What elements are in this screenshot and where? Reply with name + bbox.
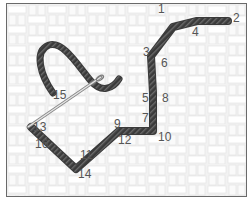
label-15: 15	[53, 88, 67, 102]
label-7: 7	[142, 111, 149, 125]
label-6: 6	[161, 56, 168, 70]
label-8: 8	[162, 91, 169, 105]
fabric-background	[7, 4, 247, 197]
label-9: 9	[114, 117, 121, 131]
label-14: 14	[78, 167, 92, 181]
stitch-diagram-frame: 1 2 3 4 5 6 7 8 9 10 11 12 13 14 15 16	[6, 3, 247, 197]
label-5: 5	[142, 91, 149, 105]
stitch-diagram-canvas: 1 2 3 4 5 6 7 8 9 10 11 12 13 14 15 16	[7, 4, 247, 197]
label-16: 16	[35, 137, 49, 151]
label-12: 12	[118, 133, 132, 147]
label-10: 10	[158, 130, 172, 144]
label-4: 4	[192, 25, 199, 39]
label-11: 11	[80, 148, 93, 162]
label-13: 13	[33, 120, 47, 134]
label-1: 1	[158, 4, 165, 16]
label-3: 3	[143, 45, 150, 59]
label-2: 2	[233, 11, 240, 25]
